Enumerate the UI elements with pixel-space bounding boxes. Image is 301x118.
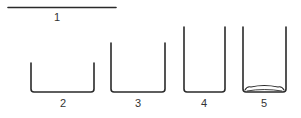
label-3: 3	[135, 98, 141, 109]
label-1: 1	[54, 12, 60, 23]
diagram-canvas	[0, 0, 301, 118]
label-4: 4	[201, 98, 207, 109]
shape-3-container	[111, 43, 165, 92]
shape-2-container	[31, 63, 94, 92]
shape-5-container	[243, 27, 286, 92]
label-5: 5	[261, 98, 267, 109]
label-2: 2	[60, 98, 66, 109]
shape-5-base-inner	[247, 90, 282, 92]
shape-4-container	[184, 27, 225, 92]
